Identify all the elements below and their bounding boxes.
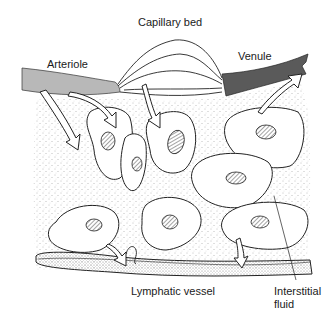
label-capillary-bed: Capillary bed [138,16,202,29]
label-arteriole: Arteriole [47,58,88,71]
label-venule: Venule [238,50,272,63]
label-lymphatic-vessel: Lymphatic vessel [131,285,215,298]
label-interstitial-fluid-line2: fluid [274,298,294,311]
arteriole [22,68,120,95]
diagram-canvas [0,0,336,317]
label-interstitial-fluid-line1: Interstitial [274,285,321,298]
capillary-bed [118,40,222,96]
